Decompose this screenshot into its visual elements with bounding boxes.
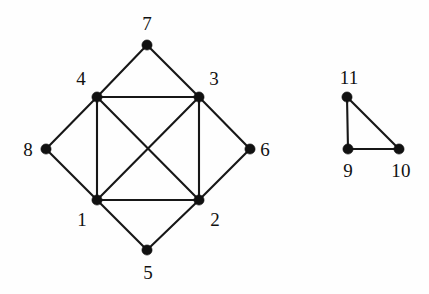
vertex-dot-1 <box>92 195 102 205</box>
edge-7-3 <box>147 45 199 97</box>
graph-canvas <box>0 0 429 294</box>
vertex-label-6: 6 <box>260 140 270 159</box>
edge-2-5 <box>147 200 199 250</box>
vertex-label-11: 11 <box>340 68 359 87</box>
vertex-dot-4 <box>92 92 102 102</box>
graph-figure: 1234567891011 <box>0 0 429 294</box>
vertex-dot-5 <box>142 245 152 255</box>
vertex-dot-2 <box>194 195 204 205</box>
edge-4-7 <box>97 45 147 97</box>
vertex-dot-11 <box>342 92 352 102</box>
vertex-label-4: 4 <box>76 69 86 88</box>
edge-5-1 <box>97 200 147 250</box>
vertex-label-10: 10 <box>391 161 410 180</box>
vertex-label-8: 8 <box>23 140 33 159</box>
vertex-label-3: 3 <box>209 69 219 88</box>
edge-1-8 <box>46 149 97 200</box>
edge-11-9 <box>347 97 348 149</box>
vertex-dot-9 <box>343 144 353 154</box>
vertex-label-9: 9 <box>343 161 353 180</box>
vertex-dot-3 <box>194 92 204 102</box>
vertex-label-7: 7 <box>142 14 152 33</box>
edge-11-10 <box>347 97 399 149</box>
vertex-dot-10 <box>394 144 404 154</box>
vertex-label-5: 5 <box>143 263 153 282</box>
edge-3-6 <box>199 97 250 149</box>
vertex-dot-7 <box>142 40 152 50</box>
edge-8-4 <box>46 97 97 149</box>
vertex-dot-8 <box>41 144 51 154</box>
edge-6-2 <box>199 149 250 200</box>
vertex-label-1: 1 <box>77 210 87 229</box>
vertex-label-2: 2 <box>210 210 220 229</box>
vertex-dot-6 <box>245 144 255 154</box>
